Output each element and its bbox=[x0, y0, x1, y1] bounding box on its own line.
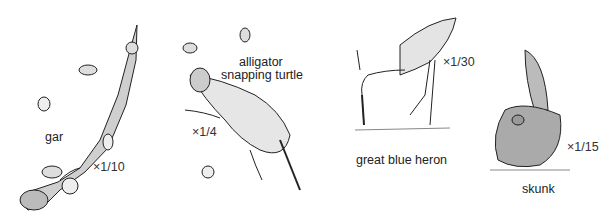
illustration-canvas bbox=[0, 0, 609, 220]
turtle-illustration bbox=[183, 28, 300, 190]
heron-scale: ×1/30 bbox=[443, 55, 475, 69]
gar-label: gar bbox=[45, 130, 63, 144]
skunk-scale: ×1/15 bbox=[567, 140, 599, 154]
turtle-scale: ×1/4 bbox=[192, 125, 217, 139]
skunk-illustration bbox=[490, 50, 570, 170]
heron-label: great blue heron bbox=[356, 153, 447, 167]
heron-illustration bbox=[355, 18, 456, 130]
turtle-label-line2: snapping turtle bbox=[221, 68, 303, 82]
skunk-label: skunk bbox=[522, 182, 555, 196]
gar-illustration bbox=[20, 25, 138, 210]
turtle-label-line1: alligator bbox=[239, 55, 283, 69]
gar-scale: ×1/10 bbox=[93, 160, 125, 174]
